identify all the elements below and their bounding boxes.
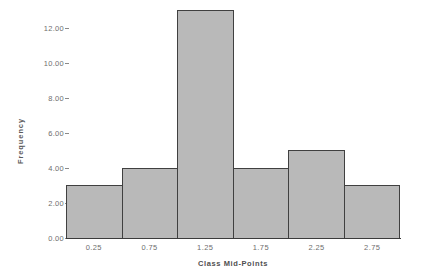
x-tick-label-3: 1.75: [233, 243, 289, 257]
x-tick-label-5: 2.75: [344, 243, 400, 257]
bar-1: [122, 168, 179, 238]
y-tick-label-4: 4.00: [18, 164, 64, 173]
histogram-chart: Frequency 0.00 2.00 4.00 6.00 8.00 10.00…: [0, 0, 422, 278]
x-axis-line: [66, 238, 401, 239]
x-tick-label-0: 0.25: [66, 243, 122, 257]
bar-5: [344, 185, 401, 238]
bar-series: [66, 6, 400, 238]
x-tick-label-1: 0.75: [122, 243, 178, 257]
y-tick-label-12: 12.00: [18, 24, 64, 33]
plot-area: [66, 6, 400, 238]
y-tick-label-0: 0.00: [18, 234, 64, 243]
y-tick-label-10: 10.00: [18, 59, 64, 68]
bar-2: [177, 10, 234, 238]
y-tick-label-6: 6.00: [18, 129, 64, 138]
x-axis-ticks: 0.25 0.75 1.25 1.75 2.25 2.75: [66, 243, 400, 257]
y-axis-ticks: 0.00 2.00 4.00 6.00 8.00 10.00 12.00: [8, 0, 64, 278]
bar-4: [288, 150, 345, 238]
bar-3: [233, 168, 290, 238]
x-tick-label-2: 1.25: [177, 243, 233, 257]
x-axis-title: Class Mid-Points: [66, 259, 400, 268]
y-tick-label-2: 2.00: [18, 199, 64, 208]
x-tick-label-4: 2.25: [289, 243, 345, 257]
bar-0: [66, 185, 123, 238]
y-tick-label-8: 8.00: [18, 94, 64, 103]
